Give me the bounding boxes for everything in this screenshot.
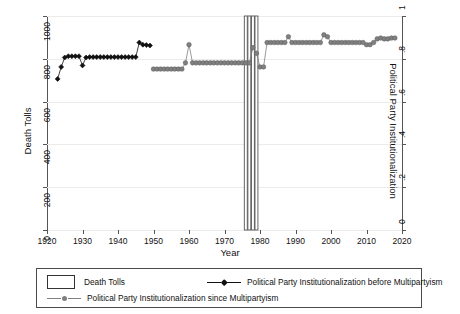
series-marker-circle: [251, 45, 256, 50]
x-tick-label: 2000: [311, 236, 351, 246]
y-right-tick: [402, 144, 406, 145]
series-marker-diamond: [133, 55, 138, 60]
ppi-since-key-icon: [47, 296, 81, 301]
series-marker-diamond: [76, 54, 81, 59]
series-marker-circle: [371, 40, 376, 45]
x-tick: [296, 230, 297, 234]
legend-label-ppi-since: Political Party Institutionalization sin…: [87, 293, 278, 303]
data-series-layer: [47, 16, 402, 230]
x-axis-title: Year: [0, 247, 460, 258]
x-tick-label: 1950: [134, 236, 174, 246]
series-marker-circle: [254, 51, 259, 56]
series-marker-diamond: [55, 76, 60, 81]
x-tick-label: 1940: [98, 236, 138, 246]
series-marker-circle: [261, 65, 266, 70]
x-tick-label: 2020: [382, 236, 422, 246]
x-tick: [225, 230, 226, 234]
series-marker-circle: [180, 67, 185, 72]
chart-figure: 02004006008001000 0.2.4.6.81 19201930194…: [0, 0, 460, 314]
death-toll-bar: [248, 16, 251, 230]
x-tick: [154, 230, 155, 234]
series-marker-circle: [187, 42, 192, 47]
x-tick-label: 1990: [276, 236, 316, 246]
legend-item-death-tolls: Death Tolls: [47, 275, 125, 289]
series-line: [154, 35, 395, 69]
ppi-before-key-icon: [207, 280, 241, 285]
series-marker-circle: [325, 34, 330, 39]
series-marker-circle: [286, 34, 291, 39]
series-line: [58, 43, 150, 79]
x-tick: [331, 230, 332, 234]
x-tick: [47, 230, 48, 234]
death-toll-bar: [244, 16, 247, 230]
plot-canvas: 02004006008001000 0.2.4.6.81 19201930194…: [47, 16, 402, 230]
x-tick: [83, 230, 84, 234]
x-tick-label: 1970: [205, 236, 245, 246]
plot-area-wrapper: 02004006008001000 0.2.4.6.81 19201930194…: [0, 0, 460, 262]
x-tick-label: 2010: [347, 236, 387, 246]
legend-item-ppi-since: Political Party Institutionalization sin…: [47, 293, 278, 303]
x-tick: [367, 230, 368, 234]
series-marker-diamond: [147, 43, 152, 48]
y-axis-left-title: Death Tolls: [22, 108, 33, 155]
chart-legend: Death Tolls Political Party Institutiona…: [36, 268, 422, 308]
x-tick-label: 1980: [240, 236, 280, 246]
y-right-tick: [402, 16, 406, 17]
x-tick-label: 1930: [63, 236, 103, 246]
x-tick: [260, 230, 261, 234]
legend-item-ppi-before: Political Party Institutionalization bef…: [207, 277, 443, 287]
series-marker-circle: [283, 40, 288, 45]
legend-label-death-tolls: Death Tolls: [84, 277, 125, 287]
y-right-tick-label: 1: [396, 5, 408, 16]
series-marker-circle: [247, 61, 252, 66]
death-toll-bar: [255, 16, 258, 230]
series-marker-circle: [393, 36, 398, 41]
y-axis-right-title: Political Party Institutionalization: [389, 63, 400, 199]
series-marker-circle: [318, 40, 323, 45]
series-marker-diamond: [80, 63, 85, 68]
x-tick: [189, 230, 190, 234]
x-tick-label: 1920: [27, 236, 67, 246]
x-tick: [402, 230, 403, 234]
y-right-tick: [402, 187, 406, 188]
series-marker-circle: [183, 61, 188, 66]
series-marker-diamond: [59, 64, 64, 69]
x-tick: [118, 230, 119, 234]
legend-label-ppi-before: Political Party Institutionalization bef…: [247, 277, 443, 287]
death-tolls-swatch-icon: [47, 275, 75, 289]
x-tick-label: 1960: [169, 236, 209, 246]
